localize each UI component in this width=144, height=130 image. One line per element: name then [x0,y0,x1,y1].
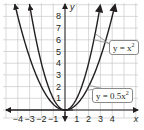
y-tick-label: 5 [56,47,61,57]
y-tick-label: 8 [56,11,61,21]
y-tick-label: 1 [56,93,61,103]
y-axis-label: y [69,2,75,12]
y-tick-label: 2 [56,82,61,92]
label-text: y = 0.5x [96,91,126,101]
x-tick-label: −4 [13,114,23,124]
y-tick-label: 3 [56,70,61,80]
x-tick-label: −1 [48,114,58,124]
x-tick-label: 2 [86,114,91,124]
y-tick-label: 6 [56,35,61,45]
x-tick-label: −3 [24,114,34,124]
x-tick-label: −2 [36,114,46,124]
label-text: y = x [113,43,132,53]
label-y-equals-x-squared: y = x2 [109,40,139,55]
label-exponent: 2 [132,42,135,48]
x-axis-label: x [133,114,139,124]
label-y-equals-half-x-squared: y = 0.5x2 [92,88,133,103]
x-tick-label: 1 [74,114,79,124]
label-exponent: 2 [126,90,129,96]
x-tick-label: 4 [110,114,115,124]
coordinate-plane: −4−3−2−1123412345678xy [0,0,144,130]
y-tick-label: 4 [56,58,61,68]
y-tick-label: 7 [56,23,61,33]
x-tick-label: 3 [98,114,103,124]
